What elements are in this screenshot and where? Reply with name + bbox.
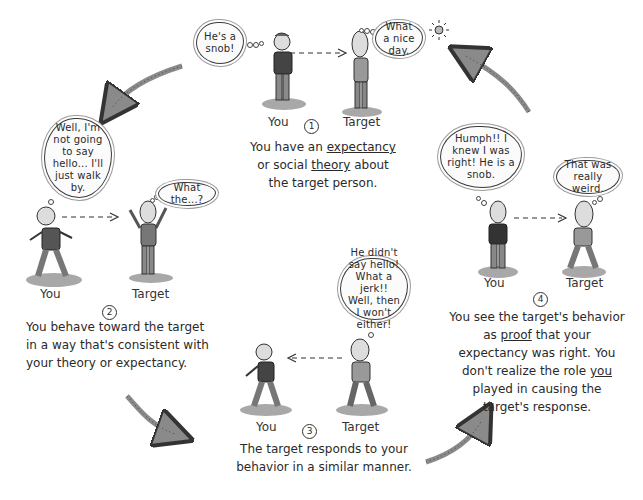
you-thought-bubble-step-4: Humph!! I knew I was right! He is a snob…: [440, 126, 522, 188]
dashed-arrow-you-to-target-step-2: [62, 212, 122, 222]
sun-icon: [424, 18, 454, 42]
thought-dot: [592, 200, 597, 205]
caption-step-3: The target responds to your behavior in …: [224, 440, 424, 476]
thought-dot: [597, 196, 603, 202]
you-label-step-1: You: [268, 115, 289, 129]
target-label-step-3: Target: [342, 420, 379, 434]
caption-step-2: You behave toward the target in a way th…: [26, 318, 226, 372]
target-figure-step-3: [334, 334, 390, 418]
target-thought-bubble-step-2: What the...?: [158, 182, 216, 206]
you-thought-bubble-step-2: Well, I'm not going to say hello... I'll…: [44, 118, 112, 198]
step-number-1: 1: [304, 119, 319, 134]
target-figure-step-2: [126, 196, 176, 286]
target-thought-bubble-step-3: He didn't say hello! What a jerk!! Well,…: [340, 258, 408, 320]
you-figure-step-4: [476, 196, 520, 280]
target-thought-bubble-step-1: What a nice day.: [375, 22, 423, 56]
cycle-arrow-4-to-1: [0, 0, 643, 500]
you-label-step-3: You: [256, 420, 277, 434]
you-figure-step-1: [259, 30, 309, 110]
target-label-step-1: Target: [343, 115, 380, 129]
target-label-step-4: Target: [566, 276, 603, 290]
step-number-3: 3: [302, 424, 317, 439]
target-figure-step-4: [560, 196, 610, 280]
you-label-step-4: You: [484, 276, 505, 290]
target-label-step-2: Target: [132, 287, 169, 301]
you-label-step-2: You: [40, 287, 61, 301]
you-figure-step-3: [238, 338, 294, 418]
caption-step-4: You see the target's behavior as proof t…: [448, 308, 626, 416]
caption-step-1: You have an expectancy or social theory …: [248, 138, 398, 192]
you-thought-text-step-4: Humph!! I knew I was right! He is a snob…: [447, 133, 515, 181]
step-number-4: 4: [533, 292, 548, 307]
target-thought-bubble-step-4: That was really weird.: [556, 160, 620, 194]
